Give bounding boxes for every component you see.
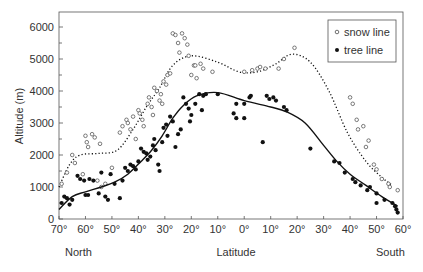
tree-line-legend-marker (335, 48, 339, 52)
snow-line-point (110, 166, 114, 170)
tree-line-point (368, 185, 372, 189)
tree-line-point (249, 94, 253, 98)
tree-line-point (267, 97, 271, 101)
snow-line-point (277, 67, 281, 71)
snow-line-point (193, 64, 197, 68)
tree-line-series (59, 92, 400, 215)
tree-line-point (109, 172, 113, 176)
snow-line-point (81, 172, 85, 176)
legend: snow line tree line (328, 20, 396, 62)
snow-line-point (93, 136, 97, 140)
tree-line-point (184, 102, 188, 106)
snow-line-point (129, 128, 133, 132)
snow-line-point (70, 153, 74, 157)
x-tick-label: 60° (77, 223, 94, 235)
tree-line-point (332, 159, 336, 163)
x-tick-label: 20° (289, 223, 306, 235)
tree-line-point (308, 147, 312, 151)
snow-line-point (355, 118, 359, 122)
y-tick-label: 5000 (30, 53, 54, 65)
tree-line-point (120, 179, 124, 183)
y-tick-label: 3000 (30, 117, 54, 129)
x-tick-label: 30° (157, 223, 174, 235)
snow-line-point (155, 89, 159, 93)
legend-tree-line: tree line (344, 44, 383, 56)
snow-line-point (98, 142, 102, 146)
tree-line-point (353, 180, 357, 184)
tree-line-point (396, 211, 400, 215)
x-tick-label: 0° (239, 223, 250, 235)
tree-line-point (242, 102, 246, 106)
x-tick-label: 10° (209, 223, 226, 235)
y-axis-label: Altitude (m) (13, 88, 25, 144)
tree-line-point (261, 140, 265, 144)
x-tick-label: 50° (368, 223, 385, 235)
snow-line-point (351, 102, 355, 106)
snow-line-point (190, 73, 194, 77)
snow-line-point (168, 72, 172, 76)
tree-line-point (78, 177, 82, 181)
snow-line-point (146, 102, 150, 106)
tree-line-point (82, 179, 86, 183)
snow-line-point (138, 112, 142, 116)
south-label: South (376, 246, 405, 258)
snow-line-point (242, 70, 246, 74)
legend-snow-line: snow line (344, 26, 390, 38)
tree-line-point (193, 102, 197, 106)
snow-line-point (134, 137, 138, 141)
tree-line-point (91, 179, 95, 183)
tree-line-point (216, 92, 220, 96)
y-tick-label: 6000 (30, 21, 54, 33)
tree-line-point (165, 134, 169, 138)
snow-line-point (174, 33, 178, 37)
y-tick-label: 0 (48, 213, 54, 225)
snow-line-point (142, 124, 146, 128)
tree-line-point (171, 119, 175, 123)
snow-line-point (201, 67, 205, 71)
x-axis-label: Latitude (216, 246, 255, 258)
snow-line-point (90, 132, 94, 136)
tree-line-point (118, 196, 122, 200)
tree-line-point (181, 95, 185, 99)
snow-line-point (264, 67, 268, 71)
snow-line-point (141, 118, 145, 122)
snow-line-point (372, 163, 376, 167)
tree-line-point (126, 169, 130, 173)
tree-line-point (152, 137, 156, 141)
tree-line-point (160, 140, 164, 144)
snow-line-point (158, 99, 162, 103)
tree-line-point (374, 201, 378, 205)
tree-line-point (176, 132, 180, 136)
snow-line-point (388, 185, 392, 189)
tree-line-point (242, 116, 246, 120)
snow-line-point (164, 83, 168, 87)
tree-line-point (234, 116, 238, 120)
snow-line-point (187, 54, 191, 58)
tree-line-point (179, 127, 183, 131)
tree-line-point (134, 167, 138, 171)
tree-line-trend-curve (59, 92, 398, 209)
snow-line-point (356, 128, 360, 132)
snow-line-point (396, 188, 400, 192)
tree-line-point (87, 177, 91, 181)
snow-line-point (195, 76, 199, 80)
tree-line-point (151, 143, 155, 147)
snow-line-point (180, 32, 184, 36)
x-tick-label: 60° (395, 223, 412, 235)
snow-line-point (348, 96, 352, 100)
tree-line-point (60, 201, 64, 205)
snow-line-point (96, 179, 100, 183)
snow-line-point (186, 43, 190, 47)
tree-line-point (200, 108, 204, 112)
tree-line-point (197, 92, 201, 96)
snow-line-point (160, 102, 164, 106)
snow-line-point (293, 46, 297, 50)
snow-line-point (211, 70, 215, 74)
tree-line-point (70, 198, 74, 202)
snow-line-point (183, 36, 187, 40)
tree-line-point (148, 155, 152, 159)
y-tick-label: 1000 (30, 181, 54, 193)
snow-line-point (121, 124, 125, 128)
tree-line-point (234, 102, 238, 106)
x-tick-label: 40° (130, 223, 147, 235)
